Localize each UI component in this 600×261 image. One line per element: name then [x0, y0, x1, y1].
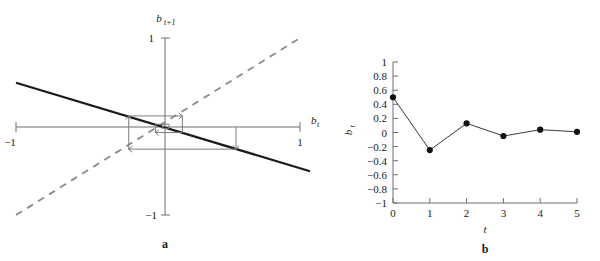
data-point-t4 — [537, 127, 543, 133]
panel-a-y-axis-label-sub: t+1 — [164, 18, 176, 27]
y-tick-m0p8: −0.8 — [367, 183, 387, 195]
y-tick-0p4: 0.4 — [373, 98, 387, 110]
data-point-t3 — [500, 133, 506, 139]
y-tick-0p6: 0.6 — [373, 84, 387, 96]
trajectory-markers — [390, 94, 580, 153]
y-tick-0: 0 — [382, 127, 388, 139]
data-point-t2 — [464, 120, 470, 126]
x-tick-3: 3 — [501, 207, 507, 219]
panel-a-cobweb: −1 1 1 −1 b t+1 b t a — [0, 0, 330, 261]
trajectory-line — [393, 97, 577, 150]
data-point-t1 — [427, 147, 433, 153]
x-tick-1: 1 — [427, 207, 433, 219]
panel-b-svg: 1 0.8 0.6 0.4 0.2 0 −0.2 −0.4 −0.6 −0.8 … — [330, 0, 600, 261]
panel-a-x-axis-label-sub: t — [317, 120, 320, 129]
panel-b-x-axis — [393, 198, 577, 203]
panel-b-timeseries: 1 0.8 0.6 0.4 0.2 0 −0.2 −0.4 −0.6 −0.8 … — [330, 0, 600, 261]
panel-a-x-axis-label: b t — [311, 114, 320, 129]
panel-a-y-axis-label-base: b — [156, 12, 162, 24]
y-tick-0p8: 0.8 — [373, 70, 387, 82]
figure-container: −1 1 1 −1 b t+1 b t a — [0, 0, 600, 261]
data-point-t0 — [390, 94, 396, 100]
y-tick-m0p4: −0.4 — [367, 155, 387, 167]
x-tick-4: 4 — [537, 207, 543, 219]
panel-b-x-axis-label: t — [483, 223, 487, 235]
panel-b-y-axis — [393, 62, 398, 203]
y-tick-1: 1 — [382, 56, 388, 68]
panel-b-x-tick-labels: 0 1 2 3 4 5 — [390, 207, 580, 219]
y-tick-m0p6: −0.6 — [367, 169, 387, 181]
panel-a-y-tick-top: 1 — [149, 32, 155, 44]
panel-a-x-tick-right: 1 — [297, 136, 303, 148]
panel-a-x-tick-left: −1 — [4, 136, 16, 148]
y-tick-0p2: 0.2 — [373, 112, 387, 124]
panel-a-svg: −1 1 1 −1 b t+1 b t a — [0, 0, 330, 261]
panel-a-caption: a — [162, 237, 168, 251]
y-tick-m1: −1 — [375, 197, 387, 209]
panel-b-y-axis-label-sub: t — [348, 125, 357, 128]
panel-b-y-axis-label: b t — [342, 125, 357, 136]
x-tick-0: 0 — [390, 207, 396, 219]
panel-a-y-axis-label: b t+1 — [156, 12, 175, 27]
panel-b-y-tick-labels: 1 0.8 0.6 0.4 0.2 0 −0.2 −0.4 −0.6 −0.8 … — [367, 56, 387, 209]
y-tick-m0p2: −0.2 — [367, 141, 387, 153]
x-tick-2: 2 — [464, 207, 470, 219]
panel-b-caption: b — [482, 242, 489, 256]
panel-a-y-tick-bottom: −1 — [145, 209, 157, 221]
data-point-t5 — [574, 129, 580, 135]
panel-b-y-axis-label-base: b — [342, 129, 354, 135]
x-tick-5: 5 — [574, 207, 580, 219]
